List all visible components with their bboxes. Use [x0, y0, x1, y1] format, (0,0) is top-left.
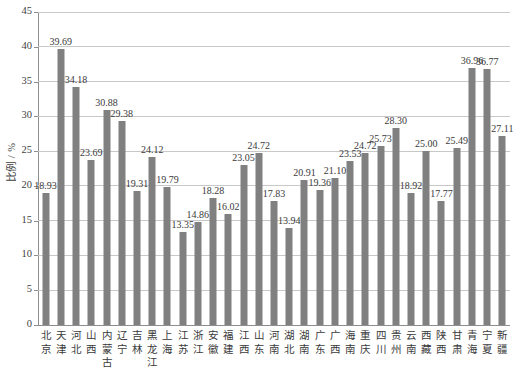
x-axis-label-char: 辽 [115, 329, 129, 343]
x-axis-label-char: 京 [39, 343, 53, 357]
x-axis-label-char: 北 [39, 329, 53, 343]
x-axis-label: 安徽 [206, 329, 220, 356]
x-axis-label-char: 湖 [282, 329, 296, 343]
bar-slot[interactable]: 21.10 [327, 12, 342, 325]
bar-slot[interactable]: 34.18 [68, 12, 83, 325]
bar-slot[interactable]: 23.05 [236, 12, 251, 325]
y-axis-tick-label: 10 [4, 249, 32, 260]
bar-slot[interactable]: 25.73 [373, 12, 388, 325]
bar-slot[interactable]: 16.02 [221, 12, 236, 325]
bar[interactable] [316, 190, 323, 325]
bar[interactable] [438, 201, 445, 325]
x-axis-label: 河南 [267, 329, 281, 356]
x-axis-label-char: 疆 [495, 343, 509, 357]
x-axis-label: 新疆 [495, 329, 509, 356]
bar-slot[interactable]: 24.72 [251, 12, 266, 325]
bar[interactable] [225, 214, 232, 325]
bar[interactable] [118, 121, 125, 325]
bar-slot[interactable]: 17.77 [434, 12, 449, 325]
bar[interactable] [423, 151, 430, 325]
x-axis-label-char: 江 [191, 343, 205, 357]
bar[interactable] [240, 165, 247, 325]
bar-slot[interactable]: 25.00 [419, 12, 434, 325]
bar-slot[interactable]: 24.72 [358, 12, 373, 325]
x-axis-label: 湖北 [282, 329, 296, 356]
bar-slot[interactable]: 30.88 [99, 12, 114, 325]
x-axis-label: 山西 [84, 329, 98, 356]
bar[interactable] [210, 198, 217, 325]
bar[interactable] [164, 187, 171, 325]
bar[interactable] [88, 160, 95, 325]
plot-area: 051015202530354045 18.9339.6934.1823.693… [38, 12, 510, 325]
bar[interactable] [362, 153, 369, 325]
x-axis-label-char: 古 [100, 356, 114, 370]
x-axis-label: 贵州 [389, 329, 403, 356]
x-axis-label: 四川 [374, 329, 388, 356]
x-axis-label: 云南 [404, 329, 418, 356]
y-axis-tick-label: 45 [4, 6, 32, 17]
x-axis-label-char: 西 [237, 343, 251, 357]
bar[interactable] [453, 148, 460, 325]
bar-slot[interactable]: 19.79 [160, 12, 175, 325]
x-axis-label: 宁夏 [480, 329, 494, 356]
bar[interactable] [499, 136, 506, 325]
x-axis-label-char: 建 [221, 343, 235, 357]
bar[interactable] [301, 180, 308, 325]
bar-slot[interactable]: 29.38 [114, 12, 129, 325]
bar-slot[interactable]: 19.31 [129, 12, 144, 325]
x-axis-label-char: 吉 [130, 329, 144, 343]
bar-slot[interactable]: 28.30 [388, 12, 403, 325]
bar-slot[interactable]: 17.83 [266, 12, 281, 325]
x-axis-label-char: 西 [328, 343, 342, 357]
x-axis-label: 陕西 [434, 329, 448, 356]
bar[interactable] [255, 153, 262, 325]
x-axis-label-char: 广 [313, 329, 327, 343]
x-axis-label-char: 黑 [145, 329, 159, 343]
bar-slot[interactable]: 13.35 [175, 12, 190, 325]
bar-slot[interactable]: 18.93 [38, 12, 53, 325]
bar[interactable] [57, 49, 64, 325]
bar[interactable] [286, 228, 293, 325]
bar[interactable] [270, 201, 277, 325]
x-axis-label-char: 广 [328, 329, 342, 343]
bar[interactable] [468, 68, 475, 325]
bar[interactable] [194, 222, 201, 325]
x-axis-label-char: 云 [404, 329, 418, 343]
x-axis-label: 青海 [465, 329, 479, 356]
x-axis-label-char: 浙 [191, 329, 205, 343]
x-axis-label: 天津 [54, 329, 68, 356]
bar[interactable] [408, 193, 415, 325]
bar-slot[interactable]: 18.92 [403, 12, 418, 325]
bar[interactable] [42, 193, 49, 325]
x-axis-label: 江西 [237, 329, 251, 356]
bar-slot[interactable]: 23.53 [343, 12, 358, 325]
x-axis-label-char: 海 [465, 343, 479, 357]
x-axis-label-char: 陕 [434, 329, 448, 343]
bar[interactable] [392, 128, 399, 325]
bar[interactable] [331, 178, 338, 325]
bar[interactable] [347, 161, 354, 325]
bar[interactable] [484, 69, 491, 325]
x-axis-label: 江苏 [176, 329, 190, 356]
bar-slot[interactable]: 36.77 [480, 12, 495, 325]
bar-slot[interactable]: 27.11 [495, 12, 510, 325]
bar-slot[interactable]: 18.28 [205, 12, 220, 325]
x-axis-label-char: 肃 [450, 343, 464, 357]
bar[interactable] [73, 87, 80, 325]
bar[interactable] [133, 191, 140, 325]
bar[interactable] [179, 232, 186, 325]
x-axis-label-char: 上 [160, 329, 174, 343]
x-axis-label-char: 河 [69, 329, 83, 343]
bar-slot[interactable]: 14.86 [190, 12, 205, 325]
x-axis-label: 北京 [39, 329, 53, 356]
bar-slot[interactable]: 24.12 [145, 12, 160, 325]
bar[interactable] [103, 110, 110, 325]
bar-slot[interactable]: 20.91 [297, 12, 312, 325]
x-axis-label: 辽宁 [115, 329, 129, 356]
y-axis-tick-label: 35 [4, 76, 32, 87]
bar-slot[interactable]: 39.69 [53, 12, 68, 325]
bar[interactable] [377, 146, 384, 325]
bar-slot[interactable]: 23.69 [84, 12, 99, 325]
y-axis-tick-label: 40 [4, 41, 32, 52]
bar[interactable] [149, 157, 156, 325]
